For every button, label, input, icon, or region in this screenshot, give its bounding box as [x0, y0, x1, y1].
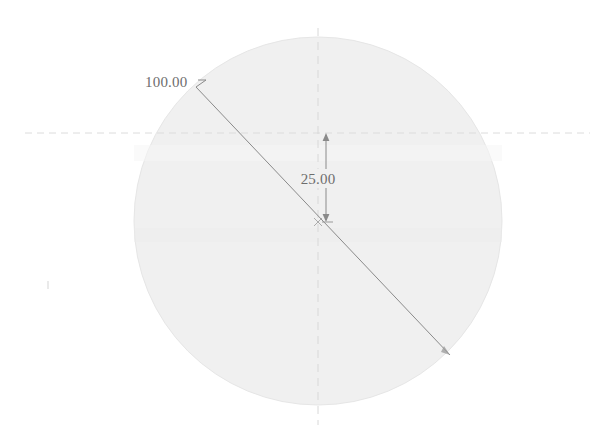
- circle-shape: [134, 37, 502, 405]
- cad-drawing-svg: 100.00 25.00: [0, 0, 607, 442]
- offset-dimension-text: 25.00: [301, 171, 336, 187]
- drawing-canvas: 100.00 25.00: [0, 0, 607, 442]
- diameter-dimension-text: 100.00: [145, 74, 187, 90]
